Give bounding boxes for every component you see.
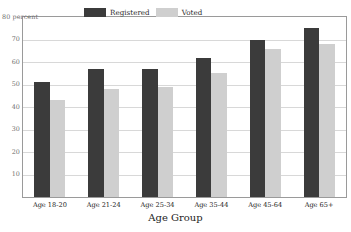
x-axis-category-labels: Age 18-20Age 21-24Age 25-34Age 35-44Age … <box>23 200 346 212</box>
y-tick-label-50: 50 <box>0 81 20 88</box>
x-tick-label: Age 65+ <box>292 200 346 210</box>
bar-group <box>304 17 335 197</box>
y-tick-label-30: 30 <box>0 126 20 133</box>
x-tick-label: Age 35-44 <box>185 200 239 210</box>
bar-voted <box>104 89 120 197</box>
bar-registered <box>34 82 50 197</box>
bar-group <box>196 17 227 197</box>
bar-registered <box>196 58 212 198</box>
x-tick-label: Age 45-64 <box>238 200 292 210</box>
legend-label-registered: Registered <box>110 8 150 17</box>
bar-group <box>142 17 173 197</box>
bar-group <box>88 17 119 197</box>
legend-item-voted: Voted <box>156 8 203 17</box>
bar-voted <box>265 49 281 198</box>
x-axis-title: Age Group <box>0 212 351 224</box>
y-tick-label-70: 70 <box>0 36 20 43</box>
x-tick-label: Age 18-20 <box>23 200 77 210</box>
bar-group <box>34 17 65 197</box>
bar-voted <box>50 100 66 197</box>
legend-swatch-registered-icon <box>84 8 106 17</box>
legend-swatch-voted-icon <box>156 8 178 17</box>
bar-registered <box>88 69 104 197</box>
bars-container <box>23 17 346 197</box>
bar-voted <box>319 44 335 197</box>
y-tick-label-40: 40 <box>0 104 20 111</box>
legend-item-registered: Registered <box>84 8 150 17</box>
bar-chart: 1020304050607080 percent Registered Vote… <box>0 0 351 232</box>
bar-voted <box>158 87 174 197</box>
x-tick-label: Age 21-24 <box>77 200 131 210</box>
bar-group <box>250 17 281 197</box>
x-tick-label: Age 25-34 <box>131 200 185 210</box>
legend: Registered Voted <box>84 8 202 17</box>
legend-label-voted: Voted <box>182 8 203 17</box>
y-tick-label-20: 20 <box>0 149 20 156</box>
y-tick-label-10: 10 <box>0 171 20 178</box>
bar-voted <box>211 73 227 197</box>
bar-registered <box>250 40 266 198</box>
y-tick-label-60: 60 <box>0 59 20 66</box>
bar-registered <box>304 28 320 197</box>
bar-registered <box>142 69 158 197</box>
